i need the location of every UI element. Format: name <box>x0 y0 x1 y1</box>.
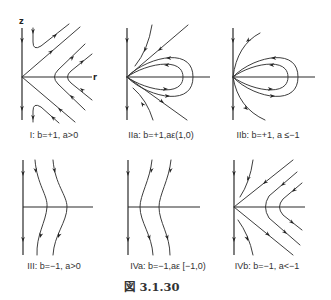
upper-hook-trajectory <box>33 24 69 48</box>
figure-label: 図 3.1.30 <box>124 280 179 294</box>
panel-caption: III: b=−1, a>0 <box>27 261 80 271</box>
panel-caption: IIb: b=+1, a ≤−1 <box>236 130 299 140</box>
arrowheads <box>21 168 61 242</box>
panel-caption: IIa: b=+1,aε(1,0) <box>128 130 194 140</box>
panel-caption: I: b=+1, a>0 <box>30 130 78 140</box>
lower-separatrix <box>127 77 187 120</box>
z-axis-label: z <box>19 17 24 26</box>
lower-hook-trajectory <box>33 105 59 123</box>
figure: z r I: b=+1, a>0 <box>0 0 331 300</box>
hyperbolic-trajectory-1 <box>266 172 301 245</box>
upper-left-trajectory <box>240 160 253 197</box>
lower-separatrix <box>233 77 265 120</box>
arrowhead-icon <box>142 46 148 52</box>
panel-caption: IVa: b=−1,aε [−1,0) <box>130 261 206 271</box>
panel-IIb: IIb: b=+1, a ≤−1 <box>231 28 315 140</box>
upper-left-trajectory <box>135 25 152 66</box>
panel-IVb: IVb: b=−1, a<−1 <box>232 160 305 271</box>
arrowheads <box>20 29 85 121</box>
panel-I: z r I: b=+1, a>0 <box>19 17 97 140</box>
arrowhead-icon <box>69 55 75 61</box>
arrowheads <box>231 37 276 111</box>
phase-portrait-diagram: z r I: b=+1, a>0 <box>0 0 331 300</box>
r-axis-label: r <box>93 73 97 82</box>
lower-separatrix <box>22 77 75 122</box>
arrowhead-icon <box>147 234 152 240</box>
arrowheads <box>125 38 171 111</box>
panel-III: III: b=−1, a>0 <box>21 160 93 271</box>
arrowheads <box>126 168 173 242</box>
panel-IVa: IVa: b=−1,aε [−1,0) <box>126 160 206 271</box>
panel-IIa: IIa: b=+1,aε(1,0) <box>125 25 210 140</box>
upper-separatrix <box>233 33 260 77</box>
panel-caption: IVb: b=−1, a<−1 <box>235 261 300 271</box>
